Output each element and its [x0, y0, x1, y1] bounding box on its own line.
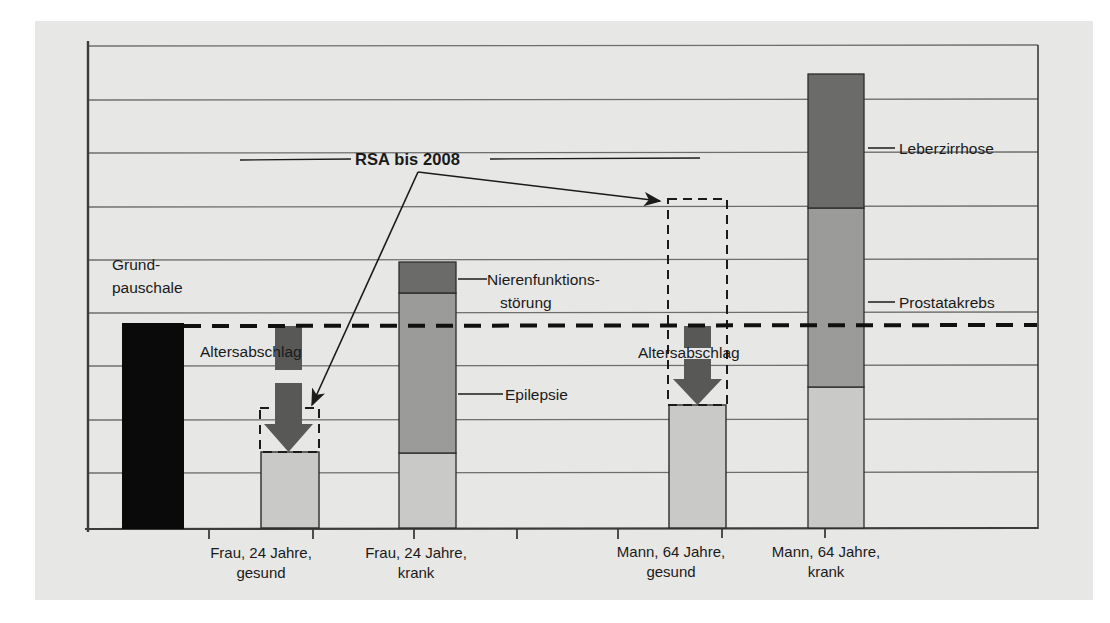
bar-mann-gesund-base	[669, 405, 726, 528]
bar-grundpauschale	[122, 323, 184, 529]
reference-line-grundpauschale	[184, 325, 1037, 326]
bar-mann-krank-seg-leberzirrhose	[808, 74, 864, 208]
x-label-frau-krank: Frau, 24 Jahre,krank	[355, 543, 477, 583]
x-label-mann-krank: Mann, 64 Jahre,krank	[762, 542, 890, 582]
chart-figure: RSA bis 2008 Grund- pauschale Altersabsc…	[0, 0, 1110, 623]
x-label-mann-gesund: Mann, 64 Jahre,gesund	[607, 542, 735, 582]
grundpauschale-label-line2: pauschale	[112, 277, 183, 298]
altersabschlag-label-right: Altersabschlag	[638, 342, 740, 363]
nierenfunktionsstoerung-label-line1: Nierenfunktions-	[487, 269, 600, 290]
bar-frau-gesund-base	[261, 452, 319, 528]
rsa-leader-left	[240, 159, 351, 160]
bar-mann-krank-seg-prostatakrebs	[808, 208, 864, 387]
bar-mann-krank-seg-grundpauschale	[808, 387, 864, 528]
bar-frau-krank-seg-grundpauschale	[399, 453, 456, 528]
gridlines	[88, 45, 1038, 473]
altersabschlag-label-left: Altersabschlag	[200, 341, 302, 362]
grundpauschale-label-line1: Grund-	[112, 254, 160, 275]
bar-frau-krank-seg-epilepsie	[399, 293, 456, 453]
bar-frau-krank-seg-niere	[399, 262, 456, 293]
rsa-arrow-to-mann-gesund	[418, 172, 660, 201]
prostatakrebs-label: Prostatakrebs	[899, 292, 995, 313]
epilepsie-label: Epilepsie	[505, 384, 568, 405]
x-label-frau-gesund: Frau, 24 Jahre,gesund	[200, 543, 322, 583]
nierenfunktionsstoerung-label-line2: störung	[500, 292, 552, 313]
rsa-annotation-label: RSA bis 2008	[355, 149, 460, 170]
rsa-leader-right	[490, 158, 700, 159]
leberzirrhose-label: Leberzirrhose	[899, 138, 994, 159]
x-axis	[85, 528, 1038, 529]
